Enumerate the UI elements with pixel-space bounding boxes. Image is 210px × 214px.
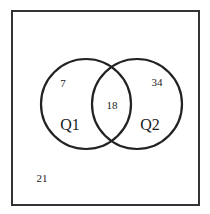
venn-diagram: 7 34 18 Q1 Q2 21 (0, 0, 210, 214)
circle-q1 (41, 59, 131, 149)
circle-q2 (92, 59, 182, 149)
q2-only-count: 34 (152, 76, 164, 88)
q1-label: Q1 (60, 116, 80, 133)
intersection-count: 18 (107, 99, 119, 111)
outside-count: 21 (37, 172, 48, 184)
q1-only-count: 7 (60, 77, 66, 89)
q2-label: Q2 (140, 116, 160, 133)
